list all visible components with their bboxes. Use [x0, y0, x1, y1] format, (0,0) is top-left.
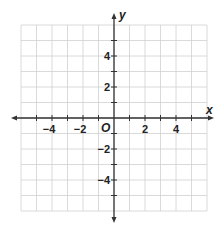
y-axis-bottom-arrow-icon	[112, 217, 117, 223]
origin-label: O	[101, 121, 111, 135]
x-tick-label: 2	[142, 123, 148, 135]
y-tick-label: 2	[104, 81, 110, 93]
y-axis-top-arrow-icon	[112, 13, 117, 19]
x-tick-label: −4	[43, 123, 56, 135]
coordinate-plane: −4−22442−2−4 x y O	[0, 0, 221, 231]
x-axis-label: x	[205, 103, 214, 117]
y-tick-label: −4	[97, 174, 110, 186]
x-axis-left-arrow-icon	[11, 116, 17, 121]
y-tick-label: −2	[97, 143, 110, 155]
x-tick-label: −2	[74, 123, 87, 135]
axes	[11, 13, 214, 223]
y-axis-label: y	[118, 8, 127, 22]
x-tick-label: 4	[173, 123, 180, 135]
y-tick-label: 4	[104, 50, 111, 62]
